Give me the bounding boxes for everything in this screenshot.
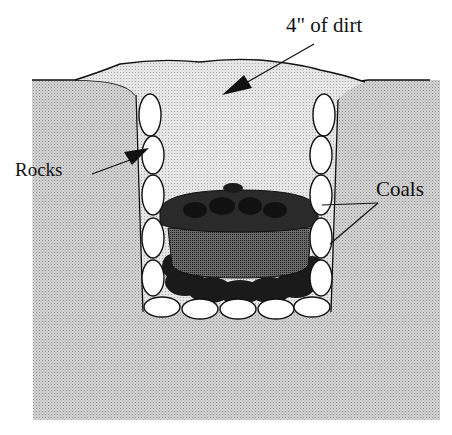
coals-label: Coals — [376, 177, 424, 202]
dirt-label: 4" of dirt — [286, 13, 362, 38]
rocks-label: Rocks — [15, 159, 63, 181]
dutch-oven — [160, 183, 324, 278]
rocks-bottom — [144, 297, 330, 319]
pit-cooking-diagram — [0, 0, 452, 435]
